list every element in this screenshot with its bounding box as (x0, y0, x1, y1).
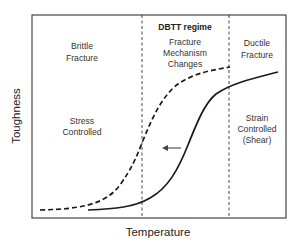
shear-label: (Shear) (243, 135, 272, 145)
shifted-curve-dashed (40, 67, 230, 210)
stress-controlled-label: Controlled (62, 127, 101, 137)
strain-label: Strain (246, 113, 269, 123)
stress-label: Stress (70, 116, 94, 126)
mechanism-label: Mechanism (163, 48, 207, 58)
fracture-label: Fracture (169, 37, 201, 47)
ductile-fracture-label: Fracture (241, 50, 273, 60)
brittle-label: Brittle (71, 41, 93, 51)
y-axis-label: Toughness (10, 88, 22, 144)
strain-controlled-label: Controlled (237, 124, 276, 134)
shift-arrow-icon (162, 145, 181, 151)
dbtt-diagram: Brittle Fracture Stress Controlled DBTT … (0, 0, 299, 242)
dbtt-regime-heading: DBTT regime (158, 22, 212, 32)
brittle-fracture-label: Fracture (66, 53, 98, 63)
ductile-label: Ductile (244, 38, 270, 48)
x-axis-label: Temperature (126, 226, 191, 238)
changes-label: Changes (168, 59, 202, 69)
